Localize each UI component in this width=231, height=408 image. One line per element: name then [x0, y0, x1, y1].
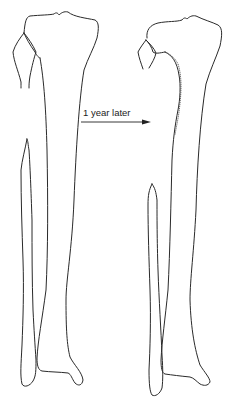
fibula-shaft-before: [21, 139, 36, 386]
fibula-head-after: [138, 40, 146, 69]
fibula-head-before: [13, 33, 24, 88]
tibia-after: [147, 16, 222, 386]
time-arrow: [81, 120, 151, 125]
bone-diagram: [0, 0, 231, 408]
after-panel: [138, 16, 222, 396]
tibia-before: [24, 12, 98, 385]
fibula-shaft-after: [148, 184, 163, 396]
fibula-head-after-inner: [146, 40, 156, 68]
bone-regrowth-margin: [165, 52, 181, 135]
arrow-head-icon: [142, 120, 151, 125]
before-panel: [13, 12, 98, 386]
fibula-head-before-inner: [24, 33, 36, 88]
time-label: 1 year later: [83, 107, 131, 118]
